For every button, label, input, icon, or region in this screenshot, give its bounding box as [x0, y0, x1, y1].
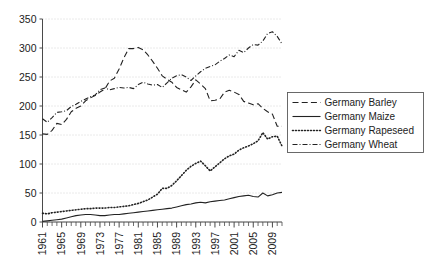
x-tick-label-1981: 1981 [132, 232, 144, 256]
chart-legend: Germany BarleyGermany MaizeGermany Rapes… [288, 93, 424, 153]
y-tick-label-100: 100 [19, 158, 37, 170]
y-tick-label-350: 350 [19, 13, 37, 25]
line-chart: 050100150200250300350 196119651969197319… [0, 0, 434, 269]
x-tick-label-1989: 1989 [170, 232, 182, 256]
y-tick-label-200: 200 [19, 100, 37, 112]
legend-label-germany-wheat: Germany Wheat [325, 139, 398, 150]
x-tick-label-1965: 1965 [55, 232, 67, 256]
y-tick-label-0: 0 [31, 216, 37, 228]
y-tick-label-250: 250 [19, 71, 37, 83]
x-tick-label-1977: 1977 [113, 232, 125, 256]
x-tick-label-1961: 1961 [36, 232, 48, 256]
y-tick-label-50: 50 [25, 187, 37, 199]
y-tick-label-150: 150 [19, 129, 37, 141]
legend-label-germany-rapeseed: Germany Rapeseed [325, 125, 415, 136]
y-tick-label-300: 300 [19, 42, 37, 54]
x-tick-label-2009: 2009 [266, 232, 278, 256]
x-tick-label-1993: 1993 [190, 232, 202, 256]
chart-figure: 050100150200250300350 196119651969197319… [0, 0, 434, 269]
x-tick-label-1985: 1985 [151, 232, 163, 256]
legend-label-germany-barley: Germany Barley [325, 97, 397, 108]
x-tick-label-2005: 2005 [247, 232, 259, 256]
x-tick-label-1973: 1973 [94, 232, 106, 256]
x-tick-label-1997: 1997 [209, 232, 221, 256]
x-tick-label-2001: 2001 [228, 232, 240, 256]
x-tick-label-1969: 1969 [75, 232, 87, 256]
legend-label-germany-maize: Germany Maize [325, 111, 396, 122]
